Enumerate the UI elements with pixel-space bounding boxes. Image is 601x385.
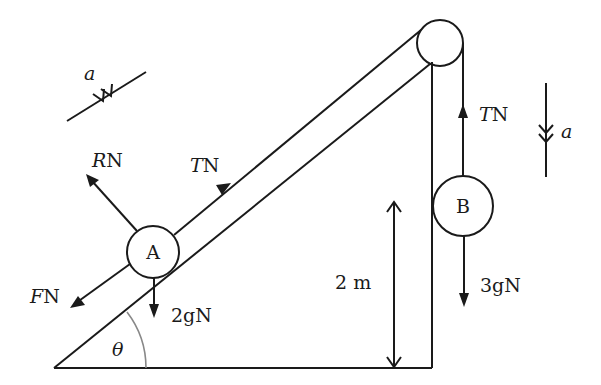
friction-force-label: FN [29, 285, 60, 307]
height-label: 2 m [335, 271, 371, 293]
particle-a: A [127, 226, 179, 278]
normal-force-label: RN [91, 149, 123, 171]
arrowhead-icon [459, 293, 469, 307]
tension-b-label: TN [479, 103, 508, 125]
acceleration-incline-label: a [84, 62, 95, 84]
weight-b-arrow [459, 236, 469, 307]
arrowhead-icon [86, 174, 99, 187]
acceleration-incline-indicator [67, 72, 146, 121]
normal-force-arrow [86, 174, 137, 231]
friction-force-arrow [70, 264, 130, 308]
particle-b: B [433, 176, 493, 236]
height-dimension-arrow [387, 202, 401, 367]
particle-b-label: B [456, 195, 470, 217]
acceleration-vertical-label: a [561, 120, 572, 142]
particle-a-label: A [145, 241, 160, 263]
pulley-incline-diagram: θ A B RN TN FN 2gN TN 3gN [0, 0, 601, 385]
angle-arc [127, 312, 146, 368]
tension-a-label: TN [190, 154, 219, 176]
angle-label: θ [112, 338, 124, 360]
weight-a-label: 2gN [171, 304, 212, 326]
rope-incline [174, 30, 421, 235]
acceleration-vertical-indicator [539, 83, 553, 177]
pulley [417, 20, 463, 66]
arrowhead-icon [149, 304, 159, 318]
incline-surface [54, 64, 430, 368]
weight-b-label: 3gN [480, 274, 521, 296]
inclined-plane [54, 62, 432, 368]
tension-b-arrowhead-icon [458, 104, 468, 118]
